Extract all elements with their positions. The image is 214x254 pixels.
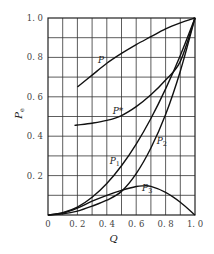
curve-label-sub: 2 bbox=[163, 140, 167, 148]
curve-label-sub: 1 bbox=[116, 160, 120, 168]
grid-lines bbox=[48, 18, 195, 215]
y-axis-label-sub: e bbox=[18, 108, 26, 112]
x-tick-label: 0. 4 bbox=[99, 219, 115, 229]
y-axis-ticks: 0. 20. 40. 60. 81. 0 bbox=[27, 13, 43, 181]
x-tick-label: 1. 0 bbox=[187, 219, 203, 229]
y-tick-label: 0. 2 bbox=[27, 171, 43, 181]
y-axis-label: Pe bbox=[13, 108, 26, 120]
x-axis-ticks: 00. 20. 40. 60. 81. 0 bbox=[45, 219, 203, 229]
x-tick-label: 0. 6 bbox=[128, 219, 144, 229]
curve-label-p1: P1 bbox=[109, 156, 120, 168]
curve-labels: PP*P1P2P3 bbox=[97, 55, 167, 195]
x-tick-label: 0 bbox=[45, 219, 50, 229]
curve-p-star bbox=[74, 18, 195, 125]
curve-label-p-star: P* bbox=[112, 106, 124, 116]
curve-label-main: P* bbox=[112, 106, 124, 116]
curve-label-p: P bbox=[97, 55, 105, 65]
curve-label-main: P bbox=[97, 55, 105, 65]
chart: PP*P1P2P3 00. 20. 40. 60. 81. 0 0. 20. 4… bbox=[0, 0, 214, 254]
x-tick-label: 0. 2 bbox=[69, 219, 85, 229]
x-axis-label: Q bbox=[109, 233, 117, 244]
y-tick-label: 0. 4 bbox=[27, 131, 43, 141]
y-tick-label: 0. 8 bbox=[27, 52, 43, 62]
x-tick-label: 0. 8 bbox=[157, 219, 173, 229]
y-tick-label: 1. 0 bbox=[27, 13, 43, 23]
y-tick-label: 0. 6 bbox=[27, 92, 43, 102]
curve-label-sub: 3 bbox=[148, 187, 152, 195]
